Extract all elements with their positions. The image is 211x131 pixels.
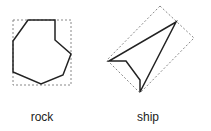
ship-bounding-box	[107, 6, 194, 93]
ship-shape	[109, 22, 176, 92]
rock-shape	[13, 20, 71, 84]
ship-label: ship	[118, 110, 178, 124]
rock-label: rock	[12, 110, 72, 124]
